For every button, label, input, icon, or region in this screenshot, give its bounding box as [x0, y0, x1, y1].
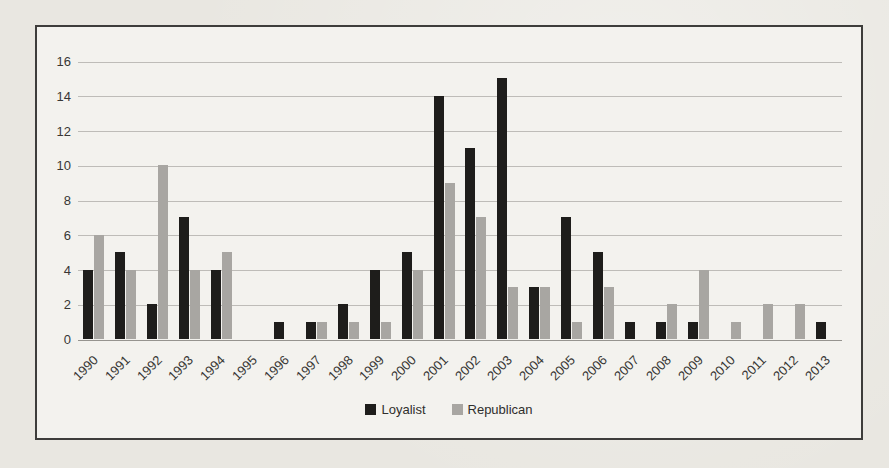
gridline: [78, 235, 842, 236]
bar-republican-2003: [508, 287, 518, 339]
bar-loyalist-2003: [497, 78, 507, 339]
bar-loyalist-2008: [656, 322, 666, 339]
bar-loyalist-1999: [370, 270, 380, 340]
bar-republican-2008: [667, 304, 677, 339]
bar-republican-2004: [540, 287, 550, 339]
bar-republican-2009: [699, 270, 709, 340]
bar-loyalist-1991: [115, 252, 125, 339]
bar-loyalist-1990: [83, 270, 93, 340]
bar-republican-2010: [731, 322, 741, 339]
bar-republican-2000: [413, 270, 423, 340]
scanned-page-background: 0246810121416 19901991199219931994199519…: [0, 0, 889, 468]
y-tick-label: 10: [37, 158, 71, 173]
y-tick-label: 8: [37, 193, 71, 208]
bar-loyalist-1992: [147, 304, 157, 339]
bar-republican-1997: [317, 322, 327, 339]
bar-loyalist-1994: [211, 270, 221, 340]
x-axis-line: [78, 340, 842, 341]
bar-republican-2006: [604, 287, 614, 339]
bar-loyalist-2002: [465, 148, 475, 339]
bar-republican-1994: [222, 252, 232, 339]
legend-item-loyalist: Loyalist: [365, 402, 425, 417]
legend: Loyalist Republican: [37, 402, 861, 417]
bar-loyalist-2006: [593, 252, 603, 339]
republican-swatch-icon: [452, 404, 463, 415]
bar-republican-2005: [572, 322, 582, 339]
bar-loyalist-1998: [338, 304, 348, 339]
bar-loyalist-1997: [306, 322, 316, 339]
y-tick-label: 14: [37, 89, 71, 104]
y-tick-label: 4: [37, 263, 71, 278]
bar-republican-1999: [381, 322, 391, 339]
bar-republican-1991: [126, 270, 136, 340]
bar-republican-1990: [94, 235, 104, 339]
legend-item-republican: Republican: [452, 402, 533, 417]
bar-loyalist-1996: [274, 322, 284, 339]
bar-loyalist-2013: [816, 322, 826, 339]
y-tick-label: 16: [37, 54, 71, 69]
bar-loyalist-2001: [434, 96, 444, 339]
plot-area: [78, 62, 842, 340]
y-tick-label: 6: [37, 228, 71, 243]
bar-loyalist-2004: [529, 287, 539, 339]
gridline: [78, 96, 842, 97]
y-tick-label: 0: [37, 332, 71, 347]
legend-label-loyalist: Loyalist: [381, 402, 425, 417]
bar-republican-1998: [349, 322, 359, 339]
y-tick-label: 12: [37, 124, 71, 139]
gridline: [78, 166, 842, 167]
bar-republican-2012: [795, 304, 805, 339]
bar-loyalist-2009: [688, 322, 698, 339]
bar-republican-2011: [763, 304, 773, 339]
y-tick-label: 2: [37, 297, 71, 312]
legend-label-republican: Republican: [468, 402, 533, 417]
bar-loyalist-1993: [179, 217, 189, 339]
gridline: [78, 131, 842, 132]
bar-loyalist-2007: [625, 322, 635, 339]
bar-republican-2002: [476, 217, 486, 339]
gridline: [78, 62, 842, 63]
bar-loyalist-2000: [402, 252, 412, 339]
loyalist-swatch-icon: [365, 404, 376, 415]
bar-loyalist-2005: [561, 217, 571, 339]
bar-republican-1992: [158, 165, 168, 339]
bar-republican-2001: [445, 183, 455, 339]
gridline: [78, 201, 842, 202]
bar-republican-1993: [190, 270, 200, 340]
chart-frame: 0246810121416 19901991199219931994199519…: [35, 25, 863, 440]
